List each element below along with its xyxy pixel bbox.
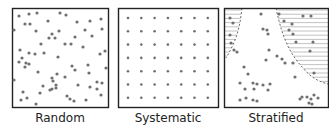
sample-point [259, 12, 262, 15]
sample-point [261, 27, 264, 30]
sample-point [277, 12, 280, 15]
sample-point [300, 95, 303, 98]
sample-point [310, 102, 313, 105]
label-stratified: Stratified [224, 111, 328, 125]
sample-point [265, 28, 268, 31]
sample-point [309, 14, 312, 17]
panel-stratified [0, 0, 329, 111]
sample-point [252, 87, 255, 90]
sample-point [251, 98, 254, 101]
sample-point [232, 48, 235, 51]
sample-point [312, 93, 315, 96]
sample-point [244, 96, 247, 99]
sample-point [261, 83, 264, 86]
sample-point [312, 71, 315, 74]
sample-point [291, 32, 294, 35]
sample-point [242, 65, 245, 68]
sample-point [311, 40, 314, 43]
sample-point [255, 99, 258, 102]
sample-point [229, 41, 232, 44]
sample-point [255, 82, 258, 85]
sample-point [294, 40, 297, 43]
stratum-boundary-right [276, 8, 328, 84]
sample-point [307, 101, 310, 104]
sample-point [282, 19, 285, 22]
sample-point [268, 82, 271, 85]
sample-point [283, 61, 286, 64]
sample-point [264, 58, 267, 61]
sample-point [280, 57, 283, 60]
sample-point [246, 72, 249, 75]
sample-point [238, 98, 241, 101]
sample-point [309, 97, 312, 100]
sample-point [235, 50, 238, 53]
stratified-frame [225, 9, 329, 108]
sample-point [238, 81, 241, 84]
sample-point [293, 75, 296, 78]
sample-point [266, 32, 269, 35]
sample-point [228, 16, 231, 19]
sample-point [290, 22, 293, 25]
sample-point [305, 95, 308, 98]
sample-point [251, 81, 254, 84]
sample-point [316, 96, 319, 99]
sample-point [275, 54, 278, 57]
stratified-sampling-plot [0, 0, 329, 111]
label-systematic: Systematic [118, 111, 218, 125]
sample-point [243, 87, 246, 90]
sample-point [287, 28, 290, 31]
sample-point [301, 14, 304, 17]
sample-point [291, 61, 294, 64]
sample-point [308, 49, 311, 52]
sample-point [267, 48, 270, 51]
sample-point [231, 21, 234, 24]
sample-point [266, 88, 269, 91]
sample-point [228, 33, 231, 36]
label-random: Random [12, 111, 108, 125]
